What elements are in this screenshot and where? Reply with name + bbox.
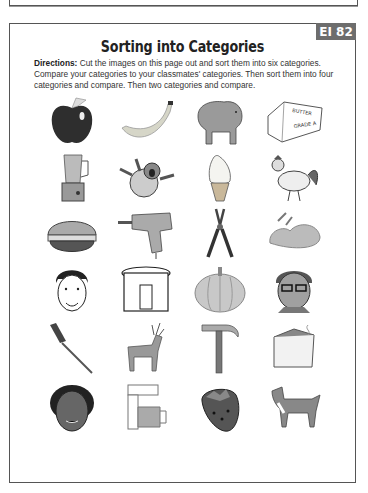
boy-with-glasses-icon [264,263,324,317]
screwdriver-icon [42,321,102,375]
hamburger-image [40,207,104,261]
dog-icon [264,381,324,435]
slow-cooker-image [114,263,178,317]
ice-cream-image [188,151,252,205]
hammer-icon [190,321,250,375]
ice-cream-icon [190,151,250,205]
rooster-image [262,151,326,205]
coffee-maker-image [114,381,178,435]
butter-image: BUTTERGRADE A [262,94,326,148]
pumpkin-icon [190,263,250,317]
monkey-icon [116,151,176,205]
strawberry-image [188,381,252,435]
steak-icon [264,207,324,261]
hammer-image [188,321,252,375]
butter-icon: BUTTERGRADE A [264,94,324,148]
page-title: Sorting into Categories [41,38,324,56]
pliers-icon [190,207,250,261]
worksheet-panel: EI 82 Sorting into Categories Directions… [9,23,356,483]
rooster-icon [264,151,324,205]
boy-with-glasses-image [262,263,326,317]
drill-icon [116,207,176,261]
banana-icon [116,94,176,148]
freezer-icon [264,321,324,375]
apple-image [40,94,104,148]
deer-icon [116,321,176,375]
bear-icon [190,94,250,148]
woman-face-image [40,263,104,317]
freezer-image [262,321,326,375]
pumpkin-image [188,263,252,317]
directions-text: Cut the images on this page out and sort… [34,58,333,90]
bear-image [188,94,252,148]
previous-page-box [9,0,358,6]
dog-image [262,381,326,435]
deer-image [114,321,178,375]
apple-icon [42,94,102,148]
hamburger-icon [42,207,102,261]
boy-face-image [40,381,104,435]
directions-label: Directions: [34,58,77,68]
screwdriver-image [40,321,104,375]
coffee-maker-icon [116,381,176,435]
woman-face-icon [42,263,102,317]
steak-image [262,207,326,261]
directions: Directions: Cut the images on this page … [34,58,339,92]
monkey-image [114,151,178,205]
banana-image [114,94,178,148]
slow-cooker-icon [116,263,176,317]
drill-image [114,207,178,261]
pliers-image [188,207,252,261]
boy-face-icon [42,381,102,435]
strawberry-icon [190,381,250,435]
blender-icon [42,151,102,205]
blender-image [40,151,104,205]
